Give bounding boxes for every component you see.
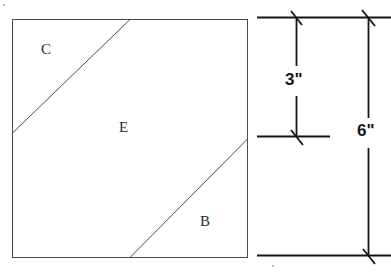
scan-speck: [272, 265, 274, 267]
diagonal-upper-line: [13, 20, 131, 134]
diagonal-lower-line: [130, 139, 248, 258]
region-label-e: E: [119, 120, 128, 135]
scan-speck: [3, 4, 5, 6]
dimension-label-6-inches: 6": [357, 122, 375, 139]
region-label-b: B: [200, 214, 210, 229]
region-label-c: C: [41, 42, 51, 57]
dimension-label-3-inches: 3": [285, 71, 303, 88]
figure-canvas: C E B 3" 6": [0, 0, 391, 278]
geometry-diagram: [0, 0, 391, 278]
